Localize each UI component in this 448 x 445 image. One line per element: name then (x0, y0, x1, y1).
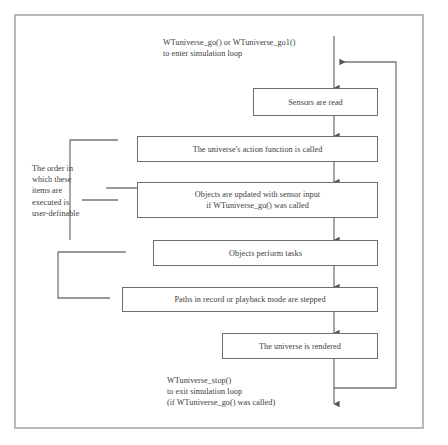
node-universe-action-function[interactable]: The universe's action function is called (137, 136, 378, 162)
node-universe-action-function-label: The universe's action function is called (193, 144, 323, 155)
node-universe-rendered[interactable]: The universe is rendered (222, 333, 378, 359)
node-objects-updated-label: Objects are updated with sensor input if… (195, 189, 320, 211)
diagram-canvas: WTuniverse_go() or WTuniverse_go1() to e… (0, 0, 448, 445)
node-objects-updated[interactable]: Objects are updated with sensor input if… (137, 182, 378, 218)
exit-label: WTuniverse_stop() to exit simulation loo… (167, 375, 347, 409)
node-sensors-read-label: Sensors are read (288, 97, 342, 108)
diagram-frame (14, 14, 424, 429)
entry-label: WTuniverse_go() or WTuniverse_go1() to e… (163, 37, 348, 59)
node-paths-stepped[interactable]: Paths in record or playback mode are ste… (122, 287, 378, 312)
node-universe-rendered-label: The universe is rendered (259, 341, 341, 352)
node-objects-perform-tasks[interactable]: Objects perform tasks (153, 240, 378, 266)
node-sensors-read[interactable]: Sensors are read (253, 88, 378, 116)
node-objects-perform-tasks-label: Objects perform tasks (229, 248, 302, 259)
order-note: The order in which these items are execu… (32, 163, 112, 219)
node-paths-stepped-label: Paths in record or playback mode are ste… (174, 294, 325, 305)
